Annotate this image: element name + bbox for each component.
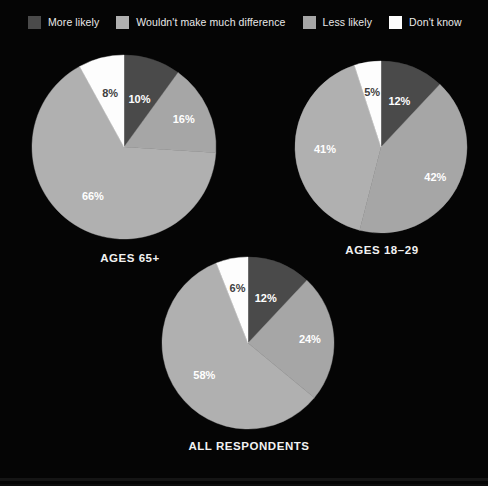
pie-slice-label: 42%	[424, 171, 446, 183]
pie-chart-ages-18-29: 12%42%41%5% AGES 18–29	[289, 60, 475, 257]
legend-item-3[interactable]: Don't know	[389, 16, 462, 29]
pie-chart-all-respondents: 12%24%58%6% ALL RESPONDENTS	[156, 256, 342, 453]
pie-chart-ages-65-plus: 10%16%66%8% AGES 65+	[28, 52, 232, 265]
pie-slice-label: 12%	[388, 95, 410, 107]
pie-graphic-ages-65-plus: 10%16%66%8%	[28, 52, 232, 248]
legend-item-1[interactable]: Wouldn't make much difference	[116, 16, 285, 29]
pie-slice-label: 10%	[128, 93, 150, 105]
chart-legend: More likelyWouldn't make much difference…	[0, 0, 488, 44]
pie-graphic-all-respondents: 12%24%58%6%	[156, 256, 342, 436]
pie-caption-ages-18-29: AGES 18–29	[289, 245, 475, 257]
pie-slice-label: 58%	[193, 369, 215, 381]
legend-item-0[interactable]: More likely	[28, 16, 99, 29]
legend-swatch-icon-0	[28, 16, 41, 29]
legend-swatch-icon-1	[116, 16, 129, 29]
legend-item-2[interactable]: Less likely	[303, 16, 373, 29]
pie-slice-label: 66%	[82, 190, 104, 202]
pie-slice-label: 6%	[230, 282, 246, 294]
pie-slice-label: 41%	[314, 143, 336, 155]
legend-swatch-icon-3	[389, 16, 402, 29]
legend-item-label: Wouldn't make much difference	[136, 17, 285, 28]
pie-slice-label: 8%	[102, 87, 118, 99]
bottom-edge-band	[0, 478, 488, 481]
pie-caption-all-respondents: ALL RESPONDENTS	[156, 441, 342, 453]
chart-canvas: More likelyWouldn't make much difference…	[0, 0, 488, 486]
legend-item-label: Less likely	[323, 17, 373, 28]
pie-graphic-ages-18-29: 12%42%41%5%	[289, 60, 475, 240]
legend-item-label: More likely	[48, 17, 99, 28]
legend-item-label: Don't know	[409, 17, 462, 28]
pie-slice-label: 16%	[173, 113, 195, 125]
legend-swatch-icon-2	[303, 16, 316, 29]
pie-slice-label: 5%	[364, 86, 380, 98]
pie-slice-label: 24%	[299, 333, 321, 345]
pie-slice-label: 12%	[255, 292, 277, 304]
